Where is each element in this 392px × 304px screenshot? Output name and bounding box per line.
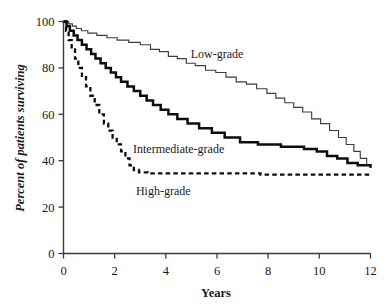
x-axis-title: Years <box>201 286 231 300</box>
x-tick-label: 6 <box>214 264 220 278</box>
y-axis-title: Percent of patients surviving <box>13 64 27 212</box>
survival-chart-figure: Percent of patients surviving Years 0204… <box>0 0 392 304</box>
y-tick-label: 100 <box>36 15 55 29</box>
x-tick-label: 4 <box>163 264 170 278</box>
y-tick-label: 40 <box>42 154 55 168</box>
y-tick-label: 60 <box>42 108 55 122</box>
curve-label-low-grade: Low-grade <box>191 47 244 61</box>
y-tick-label: 80 <box>42 61 55 75</box>
x-tick-label: 8 <box>265 264 271 278</box>
x-tick-label: 10 <box>313 264 326 278</box>
curve-label-intermediate-grade: Intermediate-grade <box>133 142 224 156</box>
x-tick-label: 12 <box>364 264 377 278</box>
curve-label-high-grade: High-grade <box>136 184 191 198</box>
y-tick-label: 20 <box>42 201 55 215</box>
chart-svg: Percent of patients surviving Years 0204… <box>0 0 392 304</box>
x-tick-label: 0 <box>60 264 66 278</box>
x-tick-label: 2 <box>112 264 118 278</box>
y-tick-label: 0 <box>48 247 54 261</box>
